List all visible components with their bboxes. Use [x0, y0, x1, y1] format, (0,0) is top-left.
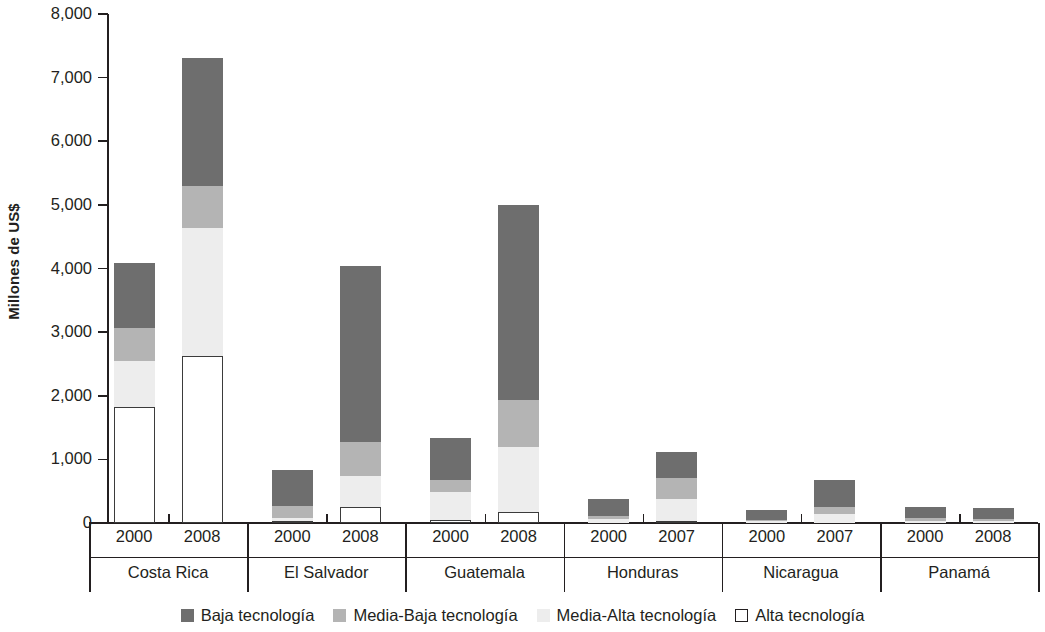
bar-segment-media-alta-tecnolog-a [340, 476, 381, 507]
y-axis-tick-label: 6,000 [0, 132, 92, 149]
bar-segment-media-baja-tecnolog-a [814, 507, 855, 514]
x-axis-group-label: El Salvador [247, 563, 405, 582]
y-axis-tick-label: 4,000 [0, 260, 92, 277]
bar-segment-baja-tecnolog-a [272, 470, 313, 507]
bar-el-salvador-2000 [272, 14, 313, 523]
x-axis-year-label: 2000 [412, 527, 488, 546]
x-axis-minor-tick [801, 514, 803, 523]
x-axis-year-label: 2007 [639, 527, 715, 546]
legend-label: Baja tecnología [201, 606, 315, 625]
x-axis-group-label: Honduras [564, 563, 722, 582]
legend-swatch-media-alta [537, 609, 550, 622]
bar-segment-media-alta-tecnolog-a [114, 361, 155, 407]
bar-el-salvador-2008 [340, 14, 381, 523]
x-axis-year-label: 2000 [887, 527, 963, 546]
x-axis-year-label: 2000 [729, 527, 805, 546]
chart-page: Millones de US$ 01,0002,0003,0004,0005,0… [0, 0, 1045, 632]
bar-guatemala-2000 [430, 14, 471, 523]
legend-swatch-baja [181, 609, 194, 622]
bar-segment-media-baja-tecnolog-a [430, 480, 471, 492]
bar-segment-baja-tecnolog-a [588, 499, 629, 516]
x-axis-group-band: 2000200820002008200020082000200720002007… [89, 523, 1038, 592]
y-axis-tick-label: 7,000 [0, 69, 92, 86]
bar-segment-baja-tecnolog-a [905, 507, 946, 518]
bar-segment-alta-tecnolog-a [182, 356, 223, 523]
x-axis-year-label: 2008 [164, 527, 240, 546]
y-axis-tick-label: 8,000 [0, 5, 92, 22]
legend-label: Media-Alta tecnología [557, 606, 717, 625]
y-axis-tick-label: 3,000 [0, 323, 92, 340]
bar-costa-rica-2008 [182, 14, 223, 523]
bar-segment-media-alta-tecnolog-a [814, 514, 855, 523]
bar-costa-rica-2000 [114, 14, 155, 523]
bar-segment-media-alta-tecnolog-a [182, 228, 223, 356]
bar-panamá-2000 [905, 14, 946, 523]
bar-segment-alta-tecnolog-a [498, 512, 539, 523]
bar-segment-media-alta-tecnolog-a [272, 518, 313, 521]
x-axis-group-label: Costa Rica [89, 563, 247, 582]
bar-segment-baja-tecnolog-a [114, 263, 155, 328]
y-axis-tick-label: 0 [0, 514, 92, 531]
x-axis-year-label: 2008 [322, 527, 398, 546]
x-axis-year-label: 2008 [955, 527, 1031, 546]
bar-segment-media-baja-tecnolog-a [746, 520, 787, 521]
bar-segment-media-baja-tecnolog-a [272, 506, 313, 518]
bar-segment-media-baja-tecnolog-a [182, 186, 223, 228]
bar-segment-baja-tecnolog-a [498, 205, 539, 400]
bar-segment-media-baja-tecnolog-a [588, 516, 629, 519]
bar-honduras-2007 [656, 14, 697, 523]
bar-segment-baja-tecnolog-a [340, 266, 381, 442]
legend-swatch-media-baja [333, 609, 346, 622]
x-axis-year-label: 2008 [481, 527, 557, 546]
bar-honduras-2000 [588, 14, 629, 523]
bar-segment-baja-tecnolog-a [746, 510, 787, 520]
x-axis-group-label: Panamá [880, 563, 1038, 582]
bar-segment-media-baja-tecnolog-a [498, 400, 539, 447]
bar-segment-media-alta-tecnolog-a [656, 499, 697, 522]
bar-segment-baja-tecnolog-a [656, 452, 697, 478]
y-axis-tick-label: 1,000 [0, 450, 92, 467]
y-axis-tick-label: 5,000 [0, 196, 92, 213]
x-axis-group-separator [1038, 523, 1040, 592]
x-axis-year-label: 2000 [96, 527, 172, 546]
bar-segment-baja-tecnolog-a [973, 508, 1014, 518]
bar-guatemala-2008 [498, 14, 539, 523]
legend-swatch-alta [735, 609, 748, 622]
x-axis-group-label: Guatemala [405, 563, 563, 582]
plot-area [108, 14, 1038, 523]
legend-item[interactable]: Baja tecnología [181, 606, 315, 625]
legend-item[interactable]: Alta tecnología [735, 606, 864, 625]
x-axis-year-label: 2000 [571, 527, 647, 546]
legend-item[interactable]: Media-Baja tecnología [333, 606, 517, 625]
bar-segment-media-alta-tecnolog-a [430, 492, 471, 520]
chart-legend: Baja tecnologíaMedia-Baja tecnologíaMedi… [0, 598, 1045, 632]
x-axis-year-label: 2000 [254, 527, 330, 546]
bar-segment-media-baja-tecnolog-a [656, 478, 697, 498]
x-axis-minor-tick [326, 514, 328, 523]
bar-segment-media-baja-tecnolog-a [973, 519, 1014, 522]
y-axis-tick-label: 2,000 [0, 387, 92, 404]
x-axis-year-label: 2007 [797, 527, 873, 546]
bar-nicaragua-2000 [746, 14, 787, 523]
x-axis-minor-tick [168, 514, 170, 523]
bar-segment-baja-tecnolog-a [814, 480, 855, 507]
legend-label: Alta tecnología [755, 606, 864, 625]
bar-panamá-2008 [973, 14, 1014, 523]
bar-segment-alta-tecnolog-a [114, 407, 155, 523]
legend-item[interactable]: Media-Alta tecnología [537, 606, 717, 625]
bar-segment-baja-tecnolog-a [182, 58, 223, 187]
legend-label: Media-Baja tecnología [353, 606, 517, 625]
bar-segment-media-baja-tecnolog-a [114, 328, 155, 361]
bar-segment-media-baja-tecnolog-a [340, 442, 381, 476]
x-axis-minor-tick [485, 514, 487, 523]
x-axis-minor-tick [643, 514, 645, 523]
bar-segment-media-baja-tecnolog-a [905, 518, 946, 521]
bar-segment-alta-tecnolog-a [340, 507, 381, 523]
x-axis-group-label: Nicaragua [722, 563, 880, 582]
x-axis-minor-tick [959, 514, 961, 523]
bar-segment-media-alta-tecnolog-a [498, 447, 539, 511]
bar-nicaragua-2007 [814, 14, 855, 523]
bar-segment-baja-tecnolog-a [430, 438, 471, 479]
